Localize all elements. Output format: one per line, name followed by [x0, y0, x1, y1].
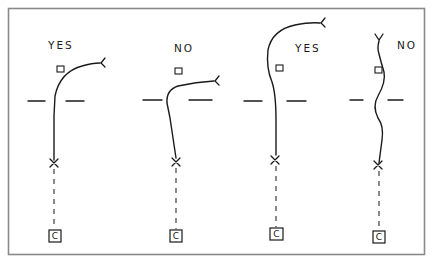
panel-1-yes: YES C — [28, 39, 105, 242]
c-box-label: C — [52, 231, 58, 241]
verdict-label: YES — [47, 39, 74, 51]
arrow-fork-icon — [215, 76, 219, 85]
cross-marker-icon — [374, 161, 382, 169]
verdict-label: NO — [397, 39, 417, 51]
panel-3-yes: YES C — [244, 18, 325, 240]
trajectory-path — [375, 41, 384, 163]
small-square-marker — [175, 68, 182, 74]
panel-2-no: NO C — [143, 42, 219, 242]
c-box-label: C — [173, 231, 179, 241]
small-square-marker — [57, 66, 64, 72]
arrow-fork-icon — [101, 58, 105, 67]
panel-4-no: NO C — [350, 34, 417, 243]
verdict-label: YES — [294, 42, 321, 54]
c-box-label: C — [273, 229, 279, 239]
arrow-fork-icon — [375, 34, 383, 40]
small-square-marker — [375, 67, 382, 73]
arrow-fork-icon — [321, 18, 325, 27]
trajectory-path — [167, 81, 214, 158]
small-square-marker — [276, 65, 283, 71]
cross-marker-icon — [172, 158, 180, 166]
verdict-label: NO — [174, 42, 194, 54]
trajectory-path — [54, 63, 100, 160]
c-box-label: C — [376, 232, 382, 242]
goal-path-diagram: YES C NO C YES C NO C — [0, 0, 434, 263]
cross-marker-icon — [271, 156, 279, 164]
